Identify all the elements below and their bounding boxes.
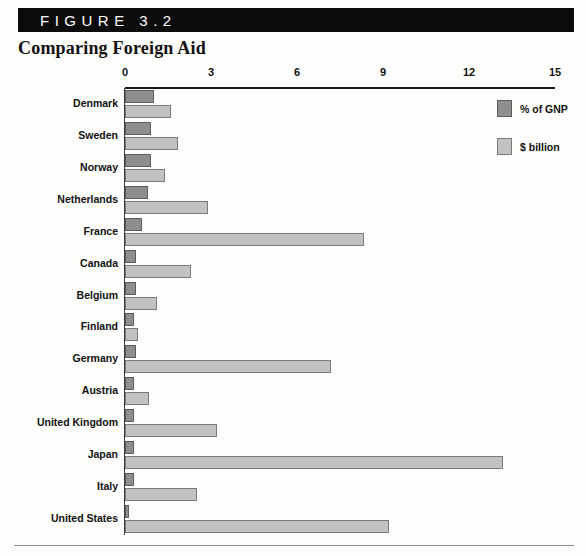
- figure-page: FIGURE 3.2 Comparing Foreign Aid 0369121…: [0, 0, 586, 556]
- legend-item-gnp: % of GNP: [497, 100, 568, 117]
- bar-united-states-gnp: [125, 505, 129, 518]
- category-label-finland: Finland: [81, 320, 118, 332]
- bar-belgium-billion: [125, 297, 157, 310]
- bar-finland-gnp: [125, 313, 134, 326]
- category-label-austria: Austria: [82, 384, 118, 396]
- bar-norway-gnp: [125, 154, 151, 167]
- bar-japan-billion: [125, 456, 503, 469]
- category-label-norway: Norway: [80, 161, 118, 173]
- category-label-belgium: Belgium: [77, 289, 118, 301]
- legend-swatch-gnp-icon: [497, 100, 512, 117]
- x-tick-0: 0: [122, 66, 128, 78]
- bar-austria-billion: [125, 392, 149, 405]
- category-label-sweden: Sweden: [78, 129, 118, 141]
- footer-divider: [14, 545, 574, 546]
- bar-sweden-gnp: [125, 122, 151, 135]
- bar-germany-gnp: [125, 345, 136, 358]
- bar-france-billion: [125, 233, 364, 246]
- category-label-canada: Canada: [80, 257, 118, 269]
- bar-canada-billion: [125, 265, 191, 278]
- bar-austria-gnp: [125, 377, 134, 390]
- bar-netherlands-gnp: [125, 186, 148, 199]
- category-label-united-kingdom: United Kingdom: [37, 416, 118, 428]
- bar-germany-billion: [125, 360, 331, 373]
- bar-denmark-gnp: [125, 90, 154, 103]
- category-label-japan: Japan: [88, 448, 118, 460]
- x-tick-3: 3: [208, 66, 214, 78]
- legend-label-billion: $ billion: [520, 141, 560, 153]
- legend-label-gnp: % of GNP: [520, 103, 568, 115]
- bar-france-gnp: [125, 218, 142, 231]
- bar-canada-gnp: [125, 250, 136, 263]
- bar-netherlands-billion: [125, 201, 208, 214]
- x-tick-15: 15: [549, 66, 561, 78]
- x-axis-line: [125, 87, 555, 89]
- legend-swatch-billion-icon: [497, 138, 512, 155]
- bar-chart: 03691215 DenmarkSwedenNorwayNetherlandsF…: [0, 0, 586, 556]
- bar-denmark-billion: [125, 105, 171, 118]
- bar-belgium-gnp: [125, 282, 136, 295]
- category-label-germany: Germany: [72, 352, 118, 364]
- x-tick-6: 6: [294, 66, 300, 78]
- category-label-united-states: United States: [51, 512, 118, 524]
- bar-japan-gnp: [125, 441, 134, 454]
- x-tick-9: 9: [380, 66, 386, 78]
- bar-united-kingdom-billion: [125, 424, 217, 437]
- category-label-france: France: [84, 225, 118, 237]
- bar-italy-gnp: [125, 473, 134, 486]
- bar-united-states-billion: [125, 520, 389, 533]
- category-label-italy: Italy: [97, 480, 118, 492]
- bar-italy-billion: [125, 488, 197, 501]
- category-label-denmark: Denmark: [73, 97, 118, 109]
- category-label-netherlands: Netherlands: [57, 193, 118, 205]
- x-tick-12: 12: [463, 66, 475, 78]
- bar-united-kingdom-gnp: [125, 409, 134, 422]
- bar-sweden-billion: [125, 137, 178, 150]
- legend-item-billion: $ billion: [497, 138, 560, 155]
- bar-norway-billion: [125, 169, 165, 182]
- bar-finland-billion: [125, 328, 138, 341]
